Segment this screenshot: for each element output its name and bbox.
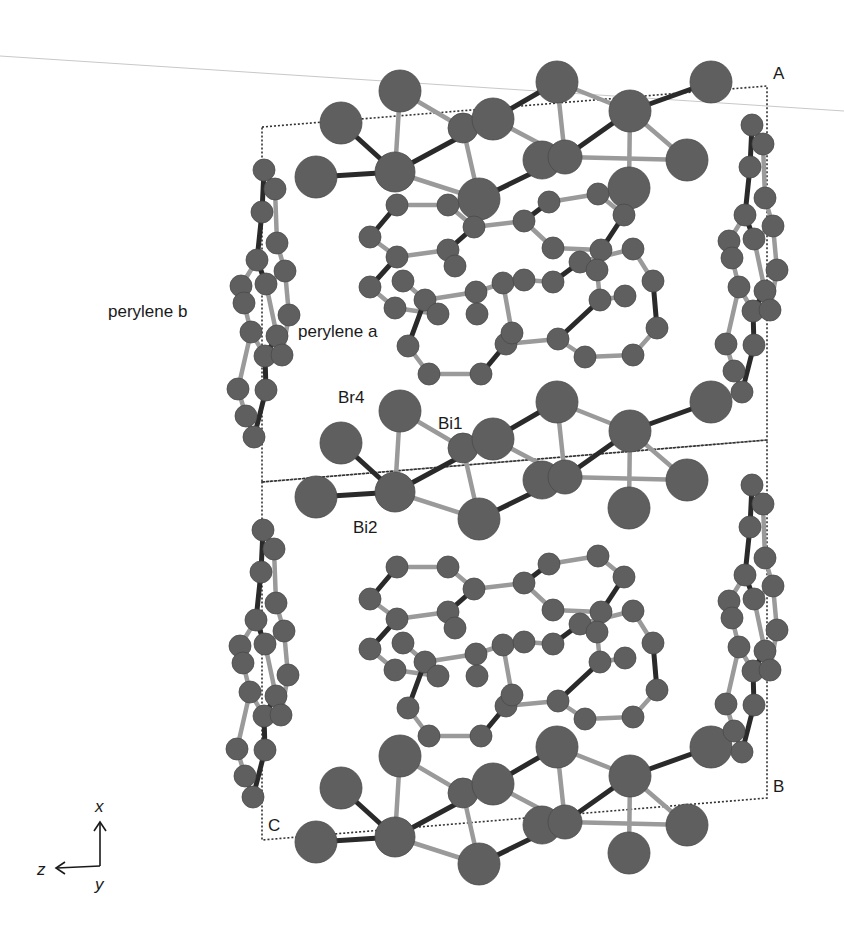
atom [614, 647, 636, 669]
atom [754, 280, 776, 302]
atom [513, 210, 535, 232]
perylene-b-1 [226, 519, 299, 808]
atom [359, 226, 381, 248]
atom [542, 237, 564, 259]
atom [472, 418, 514, 460]
atom [235, 405, 257, 427]
axis-label-y: y [94, 875, 105, 894]
atom [538, 191, 560, 213]
atom [243, 426, 265, 448]
perylene-a-0 [359, 183, 668, 385]
atom [715, 693, 737, 715]
atom [728, 276, 750, 298]
label-bi2: Bi2 [353, 518, 378, 537]
atom [723, 360, 745, 382]
atom [458, 178, 500, 220]
atom [253, 159, 275, 181]
atom [458, 843, 500, 885]
atom [427, 303, 449, 325]
atom [589, 289, 611, 311]
atom [384, 297, 406, 319]
atom [265, 592, 287, 614]
atom [752, 493, 774, 515]
atom [255, 273, 277, 295]
axis-label-z: z [36, 860, 46, 879]
atom [492, 272, 514, 294]
atom [375, 472, 415, 512]
atom [466, 303, 488, 325]
perylene-b-2 [715, 114, 788, 403]
atom [492, 634, 514, 656]
atom [587, 183, 609, 205]
atom [444, 255, 466, 277]
atom [609, 410, 651, 452]
atom [538, 553, 560, 575]
atom [608, 167, 650, 209]
atom [690, 381, 732, 423]
atom [739, 156, 761, 178]
atom [642, 270, 664, 292]
atom [375, 152, 415, 192]
atom [392, 270, 414, 292]
atom [320, 102, 362, 144]
perylene-a-1 [359, 545, 668, 747]
atom [743, 694, 765, 716]
molecules [226, 61, 788, 885]
atom [741, 114, 763, 136]
atom [379, 735, 421, 777]
atom [397, 335, 419, 357]
atom [536, 726, 578, 768]
atom [274, 260, 296, 282]
atom [574, 708, 596, 730]
atom [731, 381, 753, 403]
atom [379, 70, 421, 112]
atom [501, 684, 523, 706]
atom [463, 578, 485, 600]
atom [254, 633, 276, 655]
atom [646, 317, 668, 339]
atom [270, 704, 292, 726]
label-br4: Br4 [338, 388, 364, 407]
atom [227, 378, 249, 400]
atom [547, 690, 569, 712]
atom [754, 547, 776, 569]
atom [743, 334, 765, 356]
atom [752, 133, 774, 155]
atom [759, 299, 781, 321]
atom [762, 575, 784, 597]
atom [466, 665, 488, 687]
atom [266, 325, 288, 347]
axis-label-x: x [94, 797, 104, 816]
atom [754, 187, 776, 209]
atom [320, 422, 362, 464]
atom [723, 720, 745, 742]
atom [242, 786, 264, 808]
atom [245, 609, 267, 631]
atom [622, 344, 644, 366]
atom [609, 90, 651, 132]
atom [734, 204, 756, 226]
atom [613, 204, 635, 226]
atom [266, 232, 288, 254]
atom [295, 476, 337, 518]
corner-label-b: B [773, 777, 784, 796]
atom [734, 564, 756, 586]
atom [542, 599, 564, 621]
atom [463, 216, 485, 238]
atom [586, 621, 608, 643]
atom [542, 271, 564, 293]
atom [379, 390, 421, 432]
atom [766, 259, 788, 281]
atom [754, 640, 776, 662]
atom [590, 239, 612, 261]
atom [271, 344, 293, 366]
atom [386, 194, 408, 216]
atom [690, 61, 732, 103]
atom [666, 459, 708, 501]
atom [295, 156, 337, 198]
atom [728, 636, 750, 658]
axes-indicator: x z y [36, 797, 106, 894]
atom [501, 322, 523, 344]
atom [666, 804, 708, 846]
atom [232, 652, 254, 674]
